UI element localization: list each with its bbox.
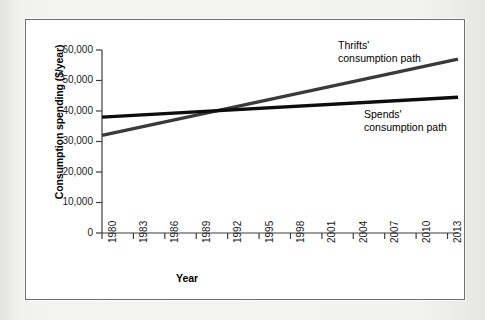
- x-axis-tick-label: 1995: [264, 221, 275, 243]
- y-axis-tick-label: 20,000: [39, 166, 93, 177]
- y-axis-tick-label: 40,000: [39, 105, 93, 116]
- y-axis-ticks: [96, 50, 102, 233]
- x-axis-tick-label: 2010: [421, 221, 432, 243]
- series-annotation-thrifts: Thrifts' consumption path: [338, 39, 421, 64]
- x-axis-tick-label: 1992: [232, 221, 243, 243]
- x-axis-tick-label: 2004: [358, 221, 369, 243]
- chart-plot-area: Consumption spending ($/year) Year 010,0…: [26, 20, 466, 301]
- y-axis-title: Consumption spending ($/year): [53, 37, 65, 207]
- x-axis-tick-label: 1983: [138, 221, 149, 243]
- y-axis-tick-label: 50,000: [39, 74, 93, 85]
- y-axis-tick-label: 30,000: [39, 135, 93, 146]
- series-annotation-spends: Spends' consumption path: [364, 108, 447, 133]
- x-axis-title: Year: [176, 272, 198, 284]
- x-axis-tick-label: 2007: [389, 221, 400, 243]
- y-axis-tick-label: 0: [39, 227, 93, 238]
- x-axis-tick-label: 2013: [452, 221, 463, 243]
- x-axis-tick-label: 1989: [201, 221, 212, 243]
- figure-panel: Consumption spending ($/year) Year 010,0…: [25, 19, 465, 300]
- chart-axes: [102, 50, 458, 233]
- x-axis-tick-label: 1998: [295, 221, 306, 243]
- x-axis-tick-label: 2001: [326, 221, 337, 243]
- x-axis-tick-label: 1986: [169, 221, 180, 243]
- y-axis-tick-label: 10,000: [39, 196, 93, 207]
- y-axis-tick-label: 60,000: [39, 44, 93, 55]
- x-axis-tick-label: 1980: [107, 221, 118, 243]
